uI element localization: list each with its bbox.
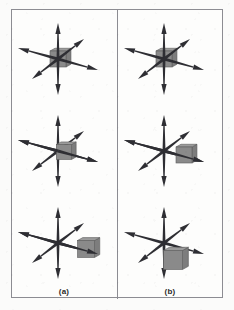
cube-centered-at-origin xyxy=(11,13,117,105)
cube-b-3 xyxy=(164,247,189,269)
panel-a: (a) xyxy=(11,9,117,299)
panel-a-label: (a) xyxy=(11,287,117,296)
figure-container: (a) (b) xyxy=(0,0,234,310)
cube-slightly-offset xyxy=(11,105,117,197)
cube-translated-down xyxy=(117,197,223,289)
scene-a-2 xyxy=(11,105,117,197)
scene-b-2 xyxy=(117,105,223,197)
panel-b-label: (b) xyxy=(117,287,223,296)
scene-a-3 xyxy=(11,197,117,289)
cube-a-3 xyxy=(78,238,100,258)
scene-a-1 xyxy=(11,13,117,105)
panel-b: (b) xyxy=(117,9,223,299)
scene-b-1 xyxy=(117,13,223,105)
cube-centered-at-origin xyxy=(117,13,223,105)
scene-b-3 xyxy=(117,197,223,289)
cube-translated-right xyxy=(117,105,223,197)
cube-translated-far-right xyxy=(11,197,117,289)
